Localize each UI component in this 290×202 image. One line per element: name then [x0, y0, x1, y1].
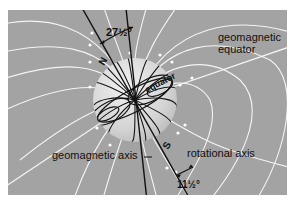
geomagnetic-axis-label: geomagnetic axis — [52, 149, 138, 161]
geomagnetic-equator-label: geomagnetic — [218, 31, 281, 43]
top-angle-label: 27½° — [106, 26, 132, 38]
geomagnetic-field-diagram: 27½° geomagnetic equator equator N S geo… — [0, 0, 290, 202]
rotational-axis-label: rotational axis — [187, 147, 255, 159]
geomagnetic-equator-label-2: equator — [218, 43, 256, 55]
bottom-angle-label: 11½° — [177, 179, 200, 190]
